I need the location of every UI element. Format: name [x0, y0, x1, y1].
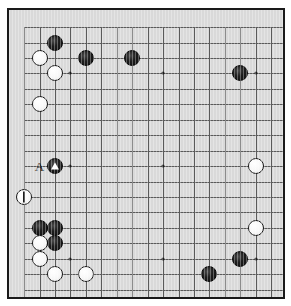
stone-white[interactable] [78, 266, 94, 282]
grid-line-horizontal [24, 89, 285, 90]
stone-white[interactable] [32, 96, 48, 112]
stone-black[interactable] [124, 50, 140, 66]
hoshi-point [254, 72, 257, 75]
grid-line-horizontal [24, 228, 285, 229]
grid-line-horizontal [24, 212, 285, 213]
hoshi-point [69, 72, 72, 75]
stone-black[interactable] [47, 235, 63, 251]
grid-line-horizontal [24, 197, 285, 198]
grid-line-horizontal [24, 135, 285, 136]
bar-mark-icon [23, 191, 25, 202]
stone-black[interactable] [201, 266, 217, 282]
stone-white[interactable] [248, 158, 264, 174]
go-diagram: A [0, 0, 291, 306]
stone-white[interactable] [47, 266, 63, 282]
hoshi-point [162, 165, 165, 168]
stone-black[interactable] [78, 50, 94, 66]
stone-white[interactable] [47, 65, 63, 81]
board-label-a: A [35, 160, 44, 173]
grid-line-horizontal [24, 104, 285, 105]
grid-line-horizontal [24, 274, 285, 275]
stone-black[interactable] [32, 220, 48, 236]
stone-black[interactable] [47, 220, 63, 236]
stone-white[interactable] [32, 251, 48, 267]
hoshi-point [69, 257, 72, 260]
grid-line-horizontal [24, 58, 285, 59]
stone-black[interactable] [47, 158, 63, 174]
grid-line-horizontal [24, 120, 285, 121]
stone-black[interactable] [232, 251, 248, 267]
grid-line-horizontal [24, 27, 285, 28]
grid-line-horizontal [24, 151, 285, 152]
grid-line-horizontal [24, 166, 285, 167]
hoshi-point [162, 72, 165, 75]
grid-line-horizontal [24, 243, 285, 244]
grid-line-horizontal [24, 182, 285, 183]
stone-black[interactable] [232, 65, 248, 81]
stone-white[interactable] [32, 235, 48, 251]
hoshi-point [162, 257, 165, 260]
stone-white[interactable] [248, 220, 264, 236]
stone-black[interactable] [47, 35, 63, 51]
grid-line-horizontal [24, 43, 285, 44]
go-board[interactable]: A [7, 8, 285, 299]
hoshi-point [69, 165, 72, 168]
stone-white[interactable] [16, 189, 32, 205]
triangle-mark-icon [51, 163, 59, 170]
hoshi-point [254, 257, 257, 260]
stone-white[interactable] [32, 50, 48, 66]
grid-line-horizontal [24, 290, 285, 291]
